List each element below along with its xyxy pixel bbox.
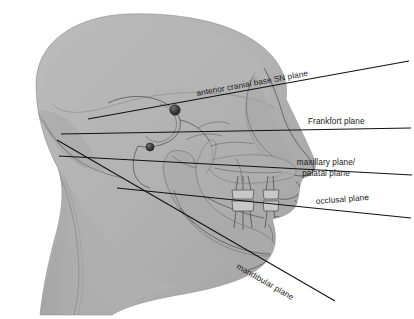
occlusal-plane-label: occlusal plane [315, 193, 369, 206]
maxillary-plane-label-line2: palatal plane [302, 169, 350, 178]
maxilla [208, 155, 296, 184]
porion-landmark [146, 143, 154, 151]
maxillary-plane-label-line1: maxillary plane/ [297, 158, 356, 167]
sella-landmark [170, 105, 180, 115]
diagram-canvas: anterior cranial base SN plane Frankfort… [0, 0, 414, 319]
cephalometric-planes-figure: anterior cranial base SN plane Frankfort… [0, 0, 414, 319]
mandibular-plane-label: mandibular plane [235, 262, 296, 302]
frankfort-plane-label: Frankfort plane [308, 117, 365, 126]
